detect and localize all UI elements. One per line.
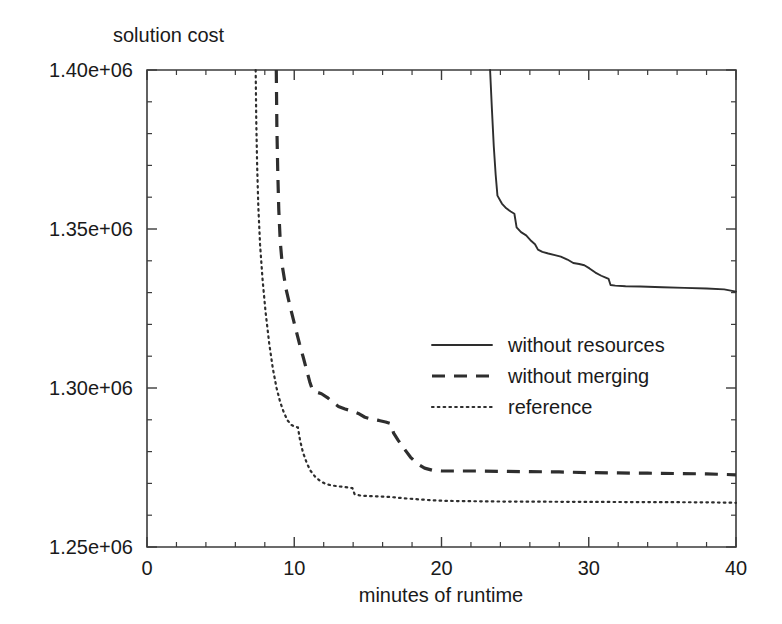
y-tick-label: 1.35e+06 — [49, 218, 133, 240]
x-tick-label: 30 — [578, 557, 600, 579]
line-chart-svg: solution cost 010203040 1.25e+061.30e+06… — [0, 0, 782, 624]
data-series-group — [256, 70, 736, 503]
x-axis-tick-labels: 010203040 — [141, 557, 747, 579]
axis-ticks — [147, 70, 736, 547]
legend-label: without merging — [507, 365, 649, 387]
chart-figure: solution cost 010203040 1.25e+061.30e+06… — [0, 0, 782, 624]
legend-label: without resources — [507, 334, 665, 356]
y-tick-label: 1.30e+06 — [49, 377, 133, 399]
chart-legend: without resourceswithout mergingreferenc… — [432, 334, 665, 418]
x-tick-label: 0 — [141, 557, 152, 579]
plot-frame — [147, 70, 736, 547]
legend-label: reference — [508, 396, 593, 418]
y-tick-label: 1.25e+06 — [49, 536, 133, 558]
y-axis-title: solution cost — [113, 24, 225, 46]
x-axis-title: minutes of runtime — [359, 584, 524, 606]
x-tick-label: 20 — [430, 557, 452, 579]
series-line-solid — [490, 70, 736, 292]
x-tick-label: 10 — [283, 557, 305, 579]
x-tick-label: 40 — [725, 557, 747, 579]
y-tick-label: 1.40e+06 — [49, 59, 133, 81]
series-line-dashed — [276, 70, 736, 475]
y-axis-tick-labels: 1.25e+061.30e+061.35e+061.40e+06 — [49, 59, 133, 558]
